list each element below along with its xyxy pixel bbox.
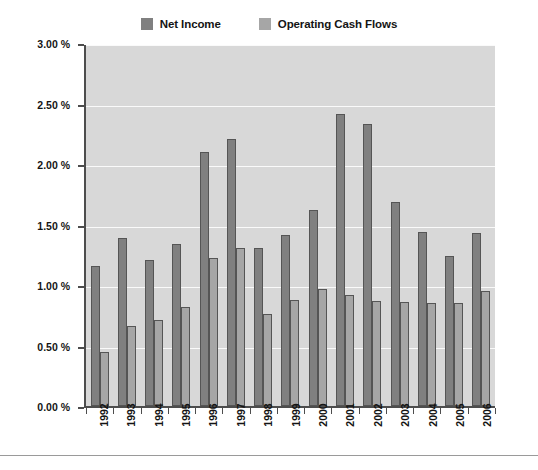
bar-net-income [172, 244, 181, 406]
x-axis-tick-label: 1994 [153, 403, 165, 426]
bar-net-income [418, 232, 427, 406]
bar-operating-cash-flows [427, 303, 436, 406]
x-axis-label-cell: 1995 [166, 412, 193, 456]
x-axis-tick-label: 1999 [290, 403, 302, 426]
bar-operating-cash-flows [154, 320, 163, 406]
y-axis-tick-label: 1.00 % [6, 280, 70, 292]
legend-entry: Net Income [141, 18, 221, 30]
bar-operating-cash-flows [181, 307, 190, 406]
x-axis-label-cell: 1998 [248, 412, 275, 456]
bar-group [413, 45, 440, 406]
y-axis-tick-label: 0.50 % [6, 341, 70, 353]
x-axis-tick-label: 1995 [180, 403, 192, 426]
bar-operating-cash-flows [290, 300, 299, 406]
x-axis-label-cell: 2004 [413, 412, 440, 456]
bar-net-income [309, 210, 318, 406]
y-axis-tick-label: 1.50 % [6, 220, 70, 232]
y-axis-tick-mark [78, 226, 84, 228]
bar-operating-cash-flows [318, 289, 327, 406]
x-axis-label-cell: 2001 [331, 412, 358, 456]
bar-operating-cash-flows [209, 258, 218, 406]
bar-group [222, 45, 249, 406]
x-axis-tick-label: 1992 [98, 403, 110, 426]
x-axis-tick-label: 2004 [427, 403, 439, 426]
bar-operating-cash-flows [100, 352, 109, 406]
bar-net-income [336, 114, 345, 406]
x-axis-tick-label: 1998 [262, 403, 274, 426]
bar-group [86, 45, 113, 406]
y-axis-tick-label: 3.00 % [6, 38, 70, 50]
bar-net-income [281, 235, 290, 406]
bar-group [195, 45, 222, 406]
bar-net-income [227, 139, 236, 406]
x-axis-tick-label: 2001 [344, 403, 356, 426]
bar-group [141, 45, 168, 406]
bar-net-income [118, 238, 127, 406]
chart-legend: Net IncomeOperating Cash Flows [0, 18, 538, 30]
x-axis-tick-label: 2000 [317, 403, 329, 426]
x-axis-tick-mark [495, 408, 496, 414]
x-axis-tick-label: 1997 [235, 403, 247, 426]
x-axis-tick-label: 2005 [454, 403, 466, 426]
bar-groups [86, 45, 495, 406]
bar-net-income [445, 256, 454, 406]
bar-group [113, 45, 140, 406]
bar-net-income [472, 233, 481, 406]
x-axis-tick-label: 2002 [372, 403, 384, 426]
bar-group [304, 45, 331, 406]
x-axis-labels: 1992199319941995199619971998199920002001… [84, 412, 495, 456]
bar-operating-cash-flows [236, 248, 245, 407]
x-axis-label-cell: 1996 [194, 412, 221, 456]
x-axis-label-cell: 2002 [358, 412, 385, 456]
bar-net-income [254, 248, 263, 407]
bar-group [331, 45, 358, 406]
bar-operating-cash-flows [345, 295, 354, 406]
bar-net-income [200, 152, 209, 406]
x-axis-tick-label: 1996 [207, 403, 219, 426]
bar-group [359, 45, 386, 406]
bar-net-income [363, 124, 372, 406]
bar-group [250, 45, 277, 406]
x-axis-label-cell: 1993 [111, 412, 138, 456]
chart-figure: Net IncomeOperating Cash Flows 0.00 %0.5… [0, 0, 538, 470]
x-axis-tick-label: 1993 [125, 403, 137, 426]
x-axis-label-cell: 2005 [440, 412, 467, 456]
bar-operating-cash-flows [372, 301, 381, 406]
bar-operating-cash-flows [263, 314, 272, 406]
bar-operating-cash-flows [481, 291, 490, 406]
y-axis-tick-mark [78, 347, 84, 349]
y-axis-tick-label: 2.50 % [6, 99, 70, 111]
bar-group [386, 45, 413, 406]
bar-operating-cash-flows [127, 326, 136, 406]
x-axis-label-cell: 1992 [84, 412, 111, 456]
bar-net-income [91, 266, 100, 406]
y-axis-tick-mark [78, 407, 84, 409]
x-axis-label-cell: 1999 [276, 412, 303, 456]
y-axis-tick-mark [78, 165, 84, 167]
x-axis-label-cell: 2000 [303, 412, 330, 456]
bar-group [277, 45, 304, 406]
x-axis-tick-label: 2006 [481, 403, 493, 426]
bottom-divider [0, 455, 538, 456]
y-axis-tick-mark [78, 44, 84, 46]
x-axis-tick-label: 2003 [399, 403, 411, 426]
bar-group [168, 45, 195, 406]
legend-swatch-operating-cash-flows [259, 18, 271, 30]
plot-wrapper: 0.00 %0.50 %1.00 %1.50 %2.00 %2.50 %3.00… [84, 45, 495, 408]
x-axis-label-cell: 1994 [139, 412, 166, 456]
bar-net-income [391, 202, 400, 406]
y-axis-tick-label: 2.00 % [6, 159, 70, 171]
legend-label: Operating Cash Flows [278, 18, 397, 30]
bar-operating-cash-flows [454, 303, 463, 406]
bar-group [440, 45, 467, 406]
legend-swatch-net-income [141, 18, 153, 30]
bar-group [468, 45, 495, 406]
bar-net-income [145, 260, 154, 406]
y-axis-tick-mark [78, 105, 84, 107]
y-axis-tick-label: 0.00 % [6, 401, 70, 413]
bar-operating-cash-flows [400, 302, 409, 406]
y-axis-tick-mark [78, 286, 84, 288]
legend-entry: Operating Cash Flows [259, 18, 397, 30]
plot-area [84, 45, 495, 408]
x-axis-label-cell: 2003 [385, 412, 412, 456]
